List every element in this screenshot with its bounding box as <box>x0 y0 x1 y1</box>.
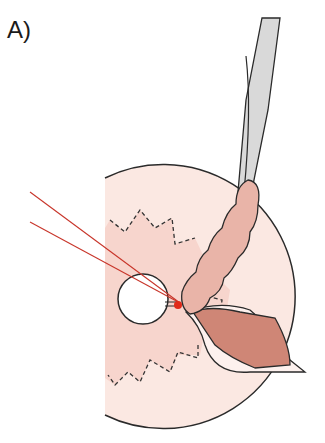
surgical-illustration <box>0 0 325 443</box>
forceps-icon <box>238 18 280 192</box>
aperture-circle <box>118 274 168 324</box>
focus-point <box>174 301 182 309</box>
